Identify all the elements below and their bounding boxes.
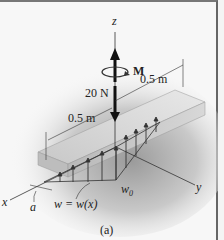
y-axis-label: y <box>196 180 201 195</box>
x-axis-label: x <box>2 195 7 210</box>
figure-caption: (a) <box>100 223 113 238</box>
dimension-label-upper: 0.5 m <box>140 72 167 87</box>
dimension-label-lower: 0.5 m <box>68 111 95 126</box>
force-label: 20 N <box>85 86 109 101</box>
figure-frame: z M 0.5 m 20 N 0.5 m w0 x a w = w(x) y (… <box>0 0 218 240</box>
max-intensity-label: w0 <box>121 182 133 198</box>
offset-label: a <box>30 200 36 215</box>
z-axis-label: z <box>112 14 117 29</box>
distributed-load-label: w = w(x) <box>54 197 97 212</box>
